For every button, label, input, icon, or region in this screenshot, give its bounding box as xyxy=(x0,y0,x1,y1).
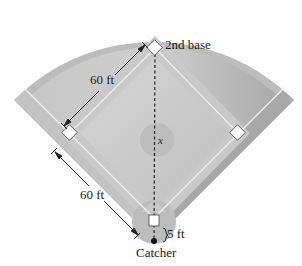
catcher-offset-label: 5 ft xyxy=(167,226,185,242)
distance-variable-label: x xyxy=(158,134,163,146)
base-path-length-label-lower: 60 ft xyxy=(80,187,104,203)
pitchers-mound xyxy=(140,123,174,157)
base-path-length-label-upper: 60 ft xyxy=(90,72,114,88)
baseball-field-diagram xyxy=(0,0,302,266)
home-plate xyxy=(149,215,159,226)
catcher-label: Catcher xyxy=(136,245,176,261)
second-base-label: 2nd base xyxy=(165,37,211,53)
catcher-position-dot xyxy=(151,238,157,244)
